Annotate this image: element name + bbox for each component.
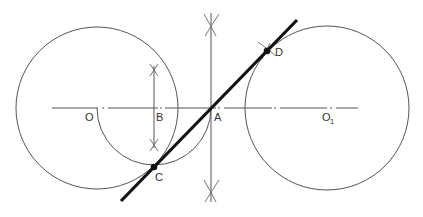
label-d: D	[275, 46, 283, 58]
tangent-construction-diagram: O B A C D O 1	[0, 0, 423, 217]
label-b: B	[156, 111, 163, 123]
label-o1-subscript: 1	[330, 117, 334, 126]
label-a: A	[214, 111, 222, 123]
point-c	[151, 164, 158, 171]
point-d	[264, 48, 271, 55]
tangent-line	[121, 20, 297, 201]
label-c: C	[155, 171, 163, 183]
label-o: O	[85, 111, 94, 123]
